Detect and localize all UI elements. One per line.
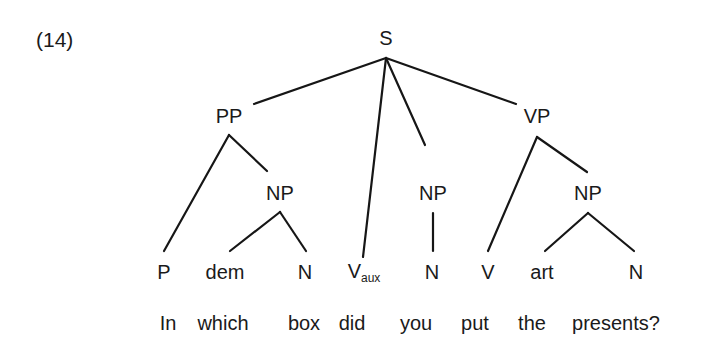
word-in: In <box>160 313 177 333</box>
edge-vp-v <box>488 137 537 251</box>
edge-np3-art <box>545 213 588 251</box>
edge-np1-n <box>280 212 306 251</box>
edge-s-vp <box>386 58 516 104</box>
edge-s-vaux <box>363 58 386 257</box>
node-np-object: NP <box>574 183 602 203</box>
leaf-v: V <box>481 262 494 282</box>
node-s: S <box>379 28 392 48</box>
leaf-art: art <box>530 262 553 282</box>
edge-np3-n <box>588 213 634 251</box>
edge-pp-np1 <box>229 135 267 171</box>
leaf-p: P <box>157 262 170 282</box>
node-vp: VP <box>524 106 551 126</box>
edge-np1-dem <box>230 212 280 251</box>
leaf-n-you: N <box>425 262 439 282</box>
word-put: put <box>461 313 489 333</box>
word-presents: presents? <box>572 313 660 333</box>
node-np-subject: NP <box>419 183 447 203</box>
edge-vp-np3 <box>537 137 587 172</box>
leaf-vaux-sub: aux <box>361 271 380 285</box>
word-which: which <box>197 313 248 333</box>
leaf-vaux: Vaux <box>348 261 381 284</box>
leaf-vaux-main: V <box>348 260 361 282</box>
leaf-dem: dem <box>206 262 245 282</box>
leaf-n-box: N <box>298 262 312 282</box>
leaf-n-presents: N <box>629 262 643 282</box>
tree-edges <box>0 0 723 346</box>
edge-pp-p <box>164 135 229 251</box>
edge-s-pp <box>254 58 386 104</box>
word-you: you <box>400 313 432 333</box>
node-pp: PP <box>216 106 243 126</box>
word-box: box <box>288 313 320 333</box>
node-np-pp: NP <box>266 183 294 203</box>
word-the: the <box>518 313 546 333</box>
word-did: did <box>339 313 366 333</box>
edge-s-np2 <box>386 58 425 145</box>
